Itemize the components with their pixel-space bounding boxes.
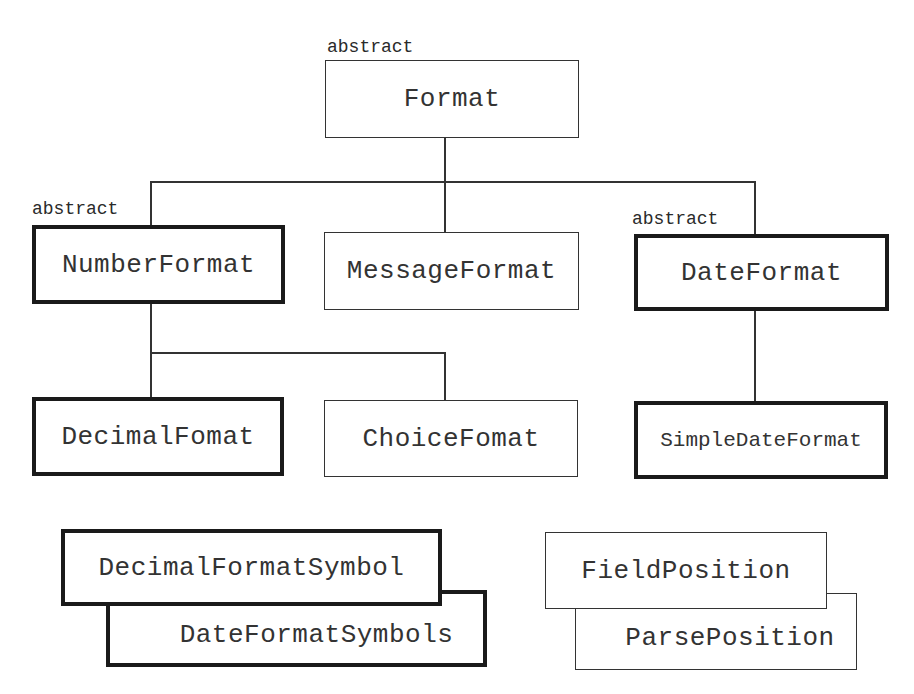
edge-numberformat-bus	[150, 352, 445, 354]
class-name-dateformat: DateFormat	[681, 258, 842, 288]
class-box-decimalformatsymbol: DecimalFormatSymbol	[61, 529, 442, 606]
class-box-choiceformat: ChoiceFomat	[324, 400, 578, 477]
abstract-label-format: abstract	[327, 38, 413, 56]
class-name-parseposition: ParsePosition	[625, 623, 834, 653]
class-box-dateformat: DateFormat	[634, 234, 889, 311]
class-name-choiceformat: ChoiceFomat	[362, 424, 539, 454]
edge-to-numberformat	[150, 181, 152, 226]
class-box-decimalformat: DecimalFomat	[32, 397, 284, 476]
class-box-simpledateformat: SimpleDateFormat	[634, 401, 888, 479]
abstract-label-dateformat: abstract	[632, 210, 718, 228]
class-name-numberformat: NumberFormat	[62, 250, 255, 280]
class-box-fieldposition: FieldPosition	[545, 532, 827, 609]
edge-numberformat-trunk	[150, 303, 152, 398]
class-name-format: Format	[404, 84, 501, 114]
class-box-numberformat: NumberFormat	[32, 225, 285, 304]
class-name-dateformatsymbols: DateFormatSymbols	[180, 620, 454, 650]
edge-to-choiceformat	[444, 352, 446, 401]
class-box-messageformat: MessageFormat	[324, 232, 579, 310]
class-box-format: Format	[325, 60, 579, 138]
class-name-messageformat: MessageFormat	[347, 256, 556, 286]
class-name-decimalformat: DecimalFomat	[61, 422, 254, 452]
class-name-simpledateformat: SimpleDateFormat	[660, 429, 862, 452]
edge-to-dateformat	[754, 181, 756, 235]
abstract-label-numberformat: abstract	[32, 200, 118, 218]
edge-to-messageformat	[444, 181, 446, 233]
edge-dateformat-to-simpledateformat	[754, 310, 756, 402]
class-name-fieldposition: FieldPosition	[581, 556, 790, 586]
class-name-decimalformatsymbol: DecimalFormatSymbol	[99, 553, 405, 583]
edge-format-bus	[150, 181, 755, 183]
edge-format-trunk	[444, 137, 446, 182]
